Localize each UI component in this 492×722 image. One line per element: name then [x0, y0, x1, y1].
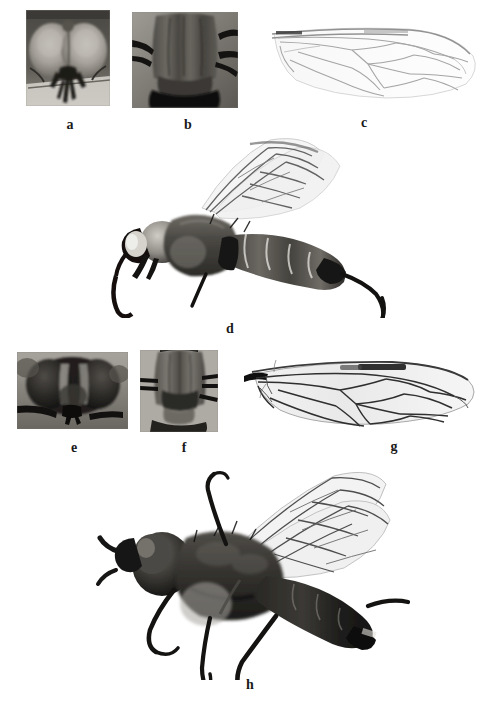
- panel-d-image: [110, 132, 400, 318]
- panel-label-e: e: [62, 441, 86, 455]
- figure-plate: a: [0, 0, 492, 722]
- wing-dark-stigma-photo: [240, 352, 482, 436]
- panel-label-f: f: [172, 441, 196, 455]
- panel-h-image: [90, 458, 410, 680]
- panel-label-c: c: [352, 116, 376, 130]
- wing-pale-photo: [268, 12, 484, 108]
- panel-label-a: a: [58, 118, 82, 132]
- panel-b-image: [132, 12, 238, 108]
- thorax-dorsal-photo: [132, 12, 238, 108]
- habitus-lateral-photo-d: [110, 132, 400, 318]
- panel-label-b: b: [176, 118, 200, 132]
- thorax-dorsal-dark-photo: [140, 350, 218, 432]
- panel-f-image: [140, 350, 218, 432]
- panel-e-image: [17, 352, 128, 429]
- panel-c-image: [268, 12, 484, 108]
- habitus-lateral-photo-h: [90, 458, 410, 680]
- head-frontal-dark-photo: [17, 352, 128, 429]
- panel-label-g: g: [382, 440, 406, 454]
- panel-label-d: d: [218, 322, 242, 336]
- panel-label-h: h: [238, 678, 262, 692]
- panel-a-image: [26, 10, 110, 106]
- panel-g-image: [240, 352, 482, 436]
- head-frontal-photo: [26, 10, 110, 106]
